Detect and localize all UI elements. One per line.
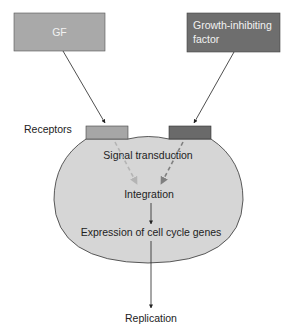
growth-inhibiting-factor-box: Growth-inhibiting factor <box>187 13 280 52</box>
receptor-right <box>169 126 211 139</box>
signal-transduction-label: Signal transduction <box>103 149 192 161</box>
cell-cycle-signaling-diagram: GF Growth-inhibiting factor Receptors Si… <box>0 0 295 333</box>
receptors-label: Receptors <box>24 123 72 135</box>
replication-label: Replication <box>125 312 177 324</box>
receptor-left <box>86 126 128 139</box>
expression-label: Expression of cell cycle genes <box>81 226 222 238</box>
growth-inhibiting-label-line2: factor <box>193 33 220 45</box>
inhibitor-to-receptor-arrow <box>194 52 234 123</box>
growth-inhibiting-label-line1: Growth-inhibiting <box>193 19 272 31</box>
integration-label: Integration <box>124 188 174 200</box>
gf-to-receptor-arrow <box>63 51 105 123</box>
gf-box: GF <box>14 13 105 51</box>
gf-label: GF <box>52 26 67 38</box>
